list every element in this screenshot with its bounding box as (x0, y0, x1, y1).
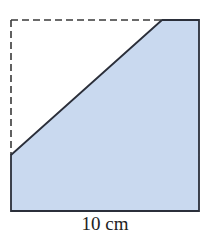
dimension-label: 10 cm (0, 213, 210, 235)
geometry-figure: 10 cm (0, 0, 210, 241)
figure-canvas (0, 0, 210, 241)
shaded-region (11, 20, 199, 211)
